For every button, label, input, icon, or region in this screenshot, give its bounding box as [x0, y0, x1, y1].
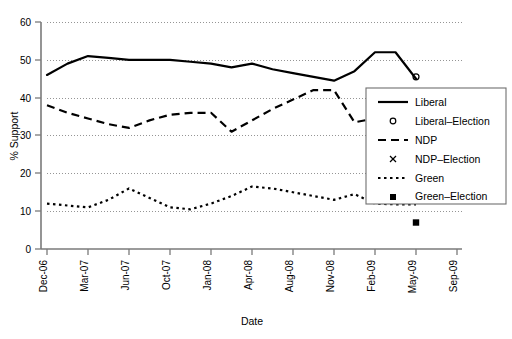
- marker-green-election: [413, 219, 419, 225]
- y-axis-title: % Support: [8, 111, 20, 160]
- x-tick-label-8: Feb-09: [366, 260, 377, 292]
- y-tick-label-20: 20: [20, 168, 32, 179]
- x-tick-label-4: Jan-08: [202, 260, 213, 291]
- legend: Liberal Liberal–Election NDP NDP–Electio…: [366, 88, 506, 204]
- y-tick-label-0: 0: [25, 244, 31, 255]
- y-tick-label-40: 40: [20, 93, 32, 104]
- legend-label-green-election: Green–Election: [415, 190, 488, 202]
- legend-label-liberal-election: Liberal–Election: [415, 115, 490, 127]
- legend-swatch-square-icon: [390, 194, 396, 200]
- x-tick-label-6: Aug-08: [284, 260, 295, 293]
- y-tick-label-10: 10: [20, 206, 32, 217]
- x-tick-label-1: Mar-07: [79, 260, 90, 292]
- x-tick-label-7: Nov-08: [325, 260, 336, 293]
- x-tick-label-2: Jun-07: [120, 260, 131, 291]
- y-tick-label-30: 30: [20, 130, 32, 141]
- x-tick-label-10: Sep-09: [448, 260, 459, 293]
- x-tick-label-0: Dec-06: [38, 260, 49, 293]
- legend-label-liberal: Liberal: [415, 96, 447, 108]
- legend-label-ndp: NDP: [415, 134, 437, 146]
- x-tick-label-3: Oct-07: [161, 260, 172, 290]
- y-tick-label-50: 50: [20, 55, 32, 66]
- x-axis-title: Date: [241, 315, 263, 327]
- chart-figure: 60 50 40 30 20 10 0 % Support: [0, 0, 512, 339]
- legend-label-green: Green: [415, 172, 444, 184]
- line-chart-canvas: 60 50 40 30 20 10 0 % Support: [0, 0, 512, 339]
- legend-label-ndp-election: NDP–Election: [415, 153, 481, 165]
- x-tick-label-5: Apr-08: [243, 260, 254, 290]
- y-tick-label-60: 60: [20, 17, 32, 28]
- x-tick-label-9: May-09: [407, 260, 418, 294]
